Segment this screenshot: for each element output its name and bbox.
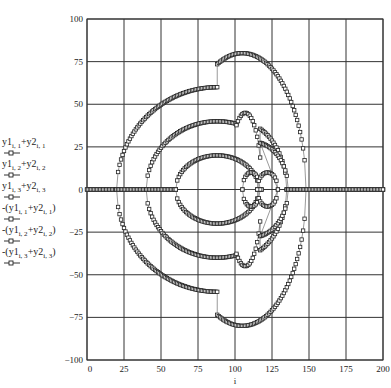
data-point <box>146 174 149 177</box>
data-point <box>235 252 238 255</box>
data-point <box>176 179 179 182</box>
data-point <box>256 240 259 243</box>
data-point <box>275 197 278 200</box>
x-axis-label: i <box>234 376 237 386</box>
data-point <box>301 229 304 232</box>
data-point <box>147 207 150 210</box>
data-point <box>258 156 261 159</box>
x-tick-label: 75 <box>194 364 204 374</box>
data-point <box>254 129 257 132</box>
data-point <box>295 118 298 121</box>
chart: 0255075100125150175200 1007550250−25−50−… <box>0 0 391 388</box>
legend-label: y1i, 3+y2i, 3 <box>2 180 46 194</box>
data-point <box>297 252 300 255</box>
data-point <box>276 188 279 191</box>
data-point <box>118 212 121 215</box>
data-point <box>284 207 287 210</box>
y-tick-label: 75 <box>74 57 84 67</box>
data-point <box>254 247 257 250</box>
y-tick-label: 0 <box>79 185 84 195</box>
data-point <box>287 282 290 285</box>
data-point <box>147 168 150 171</box>
data-point <box>303 217 306 220</box>
data-point <box>216 86 219 89</box>
y-tick-label: −100 <box>64 355 83 365</box>
data-point <box>235 123 238 126</box>
legend-label: -(y1i, 2+y2i, 2) <box>2 224 56 238</box>
data-point <box>256 135 259 138</box>
series-line-3 <box>146 143 383 190</box>
data-point <box>122 149 125 152</box>
legend-marker-icon <box>9 173 13 177</box>
data-point <box>290 275 293 278</box>
data-point <box>122 226 125 229</box>
data-point <box>116 205 119 208</box>
legend-marker-icon <box>9 261 13 265</box>
data-point <box>294 113 297 116</box>
x-tick-label: 125 <box>265 364 279 374</box>
legend-item: -(y1i, 3+y2i, 3) <box>2 246 56 265</box>
data-point <box>290 100 293 103</box>
data-point <box>253 123 256 126</box>
legend-label: y1i, 1+y2i, 1 <box>2 136 46 150</box>
y-tick-label: −50 <box>69 270 84 280</box>
data-point <box>300 138 303 141</box>
x-axis-ticks: 0255075100125150175200 <box>88 364 391 374</box>
legend-label: y1i, 2+y2i, 2 <box>2 158 46 172</box>
data-point <box>282 165 285 168</box>
data-point <box>119 218 122 221</box>
legend-marker-icon <box>9 195 13 199</box>
data-point <box>241 188 244 191</box>
legend-marker-icon <box>9 239 13 243</box>
data-point <box>251 119 254 122</box>
data-point <box>216 290 219 293</box>
legend-marker-icon <box>9 217 13 221</box>
data-point <box>258 220 261 223</box>
y-tick-label: −75 <box>69 312 84 322</box>
legend-item: -(y1i, 1+y2i, 1) <box>2 202 56 221</box>
data-point <box>285 201 288 204</box>
data-point <box>301 147 304 150</box>
legend-label: -(y1i, 1+y2i, 1) <box>2 202 56 216</box>
data-point <box>256 188 259 191</box>
data-point <box>291 104 294 107</box>
data-point <box>300 238 303 241</box>
y-tick-label: −25 <box>69 227 84 237</box>
data-point <box>174 188 177 191</box>
data-point <box>381 188 384 191</box>
y-tick-label: 25 <box>74 142 84 152</box>
legend-label: -(y1i, 3+y2i, 3) <box>2 246 56 260</box>
data-point <box>284 169 287 172</box>
data-point <box>298 130 301 133</box>
data-point <box>149 164 152 167</box>
data-point <box>121 153 124 156</box>
data-point <box>293 109 296 112</box>
y-axis-ticks: 1007550250−25−50−75−100 <box>64 14 83 365</box>
data-point <box>119 158 122 161</box>
data-point <box>288 97 291 100</box>
x-tick-label: 50 <box>157 364 167 374</box>
legend-item: y1i, 1+y2i, 1 <box>2 136 46 155</box>
x-tick-label: 150 <box>302 364 316 374</box>
data-point <box>149 212 152 215</box>
data-point <box>285 174 288 177</box>
data-point <box>121 222 124 225</box>
data-point <box>293 267 296 270</box>
data-point <box>118 163 121 166</box>
data-point <box>287 93 290 96</box>
y-tick-label: 100 <box>70 14 84 24</box>
data-point <box>297 124 300 127</box>
data-point <box>288 279 291 282</box>
x-tick-label: 25 <box>120 364 130 374</box>
series-line-neg-3 <box>146 190 383 237</box>
data-point <box>275 179 278 182</box>
data-point <box>251 256 254 259</box>
data-point <box>282 211 285 214</box>
legend: y1i, 1+y2i, 1y1i, 2+y2i, 2y1i, 3+y2i, 3-… <box>2 136 56 265</box>
x-tick-label: 0 <box>88 364 93 374</box>
y-tick-label: 50 <box>74 99 84 109</box>
data-point <box>116 170 119 173</box>
legend-item: y1i, 2+y2i, 2 <box>2 158 46 177</box>
data-point <box>298 245 301 248</box>
data-point <box>253 252 256 255</box>
